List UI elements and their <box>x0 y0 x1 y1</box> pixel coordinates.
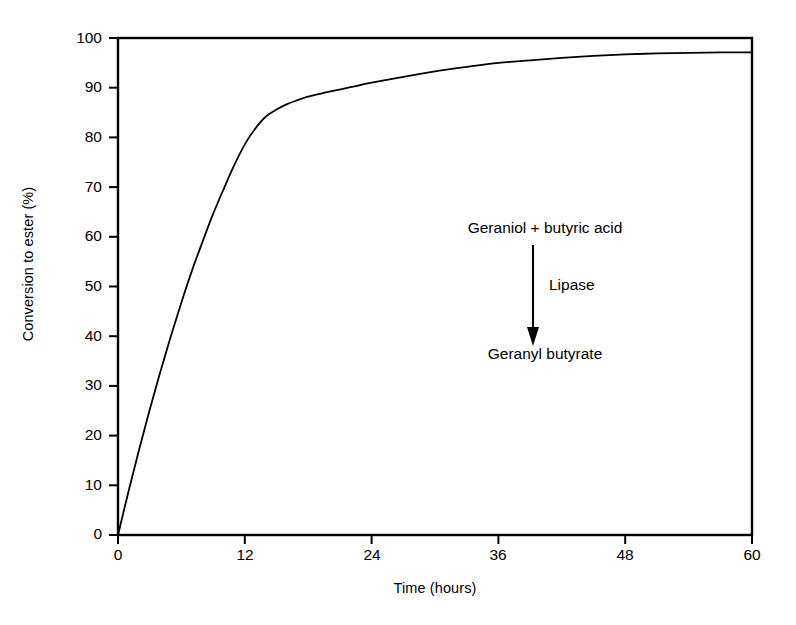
y-tick-label: 50 <box>56 278 102 294</box>
x-tick-label: 48 <box>595 547 655 563</box>
reaction-product-label: Geranyl butyrate <box>420 344 670 364</box>
reaction-scheme-annotation: Geraniol + butyric acid Lipase Geranyl b… <box>420 218 670 364</box>
x-tick-label: 60 <box>722 547 782 563</box>
reaction-enzyme-label: Lipase <box>549 276 595 294</box>
reaction-reactant-label: Geraniol + butyric acid <box>420 218 670 238</box>
x-tick-label: 12 <box>215 547 275 563</box>
y-tick-label: 70 <box>56 179 102 195</box>
x-axis-ticks <box>118 535 752 544</box>
y-tick-label: 60 <box>56 228 102 244</box>
y-tick-label: 0 <box>56 526 102 542</box>
x-tick-label: 24 <box>342 547 402 563</box>
x-tick-label: 36 <box>468 547 528 563</box>
y-tick-label: 100 <box>56 30 102 46</box>
y-tick-label: 80 <box>56 129 102 145</box>
x-axis-title: Time (hours) <box>118 580 752 596</box>
y-tick-label: 20 <box>56 427 102 443</box>
y-tick-label: 90 <box>56 79 102 95</box>
x-tick-label: 0 <box>88 547 148 563</box>
reaction-arrow-row: Lipase <box>420 240 670 342</box>
conversion-vs-time-line-chart <box>0 0 796 625</box>
y-tick-label: 40 <box>56 328 102 344</box>
y-tick-label: 30 <box>56 377 102 393</box>
y-axis-title: Conversion to ester (%) <box>20 144 36 384</box>
y-axis-ticks <box>109 38 118 535</box>
y-tick-label: 10 <box>56 477 102 493</box>
chart-figure: 100 90 80 70 60 50 40 30 20 10 0 0 12 24… <box>0 0 796 625</box>
